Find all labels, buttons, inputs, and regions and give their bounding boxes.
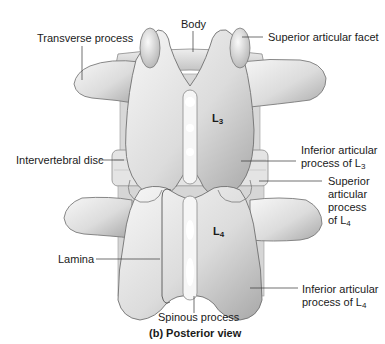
label-lamina: Lamina <box>58 253 94 266</box>
transverse-process-right-L3 <box>240 59 326 108</box>
label-superior-articular-facet: Superior articular facet <box>268 31 379 44</box>
label-inferior-articular-process-L4: Inferior articular process of L4 <box>302 283 378 309</box>
label-superior-articular-process-L4: Superior articular process of L4 <box>328 175 370 227</box>
vertebra-label-L4: L4 <box>213 225 224 237</box>
transverse-process-right-L4 <box>250 198 322 241</box>
label-spinous-process: Spinous process <box>158 311 239 324</box>
transverse-process-left-L4 <box>64 197 132 238</box>
vertebra-label-L3: L3 <box>212 112 223 124</box>
label-body: Body <box>181 18 206 31</box>
label-intervertebral-disc: Intervertebral disc <box>16 154 103 167</box>
superior-articular-facet-left <box>140 28 160 68</box>
superior-articular-facet-right <box>230 28 250 68</box>
label-transverse-process: Transverse process <box>37 32 133 45</box>
label-inferior-articular-process-L3: Inferior articular process of L3 <box>301 144 377 170</box>
figure-caption: (b) Posterior view <box>149 327 241 339</box>
